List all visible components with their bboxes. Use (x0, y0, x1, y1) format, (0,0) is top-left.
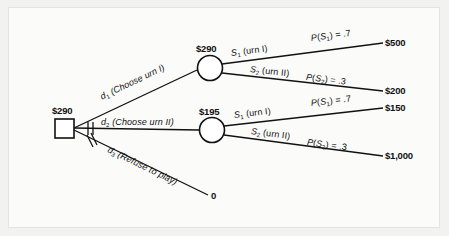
chance-node-2-value-label: $195 (199, 107, 219, 117)
state-label-n1-s1-subscript: 1 (237, 51, 241, 58)
chance-node-urn-1[interactable] (198, 56, 223, 81)
state-label-n2-s2-subscript: 2 (256, 131, 260, 138)
prob-label-n1-s2-subscript: 2 (321, 78, 325, 85)
payoff-label-500: $500 (385, 38, 405, 48)
diagram-page: $290 $290 $195 d1 (Choose urn I) d2 (Cho… (0, 0, 449, 236)
payoff-label-200: $200 (385, 86, 405, 96)
prob-label-n1-s1-subscript: 1 (326, 35, 330, 42)
payoff-label-1000: $1,000 (385, 151, 413, 161)
root-decision-node[interactable] (55, 119, 74, 138)
chance-node-1-value-label: $290 (196, 44, 216, 54)
prob-label-n2-s1-subscript: 1 (326, 100, 330, 107)
branch-label-d2-text: (Choose urn II) (110, 117, 174, 127)
branch-label-d2: d2 (Choose urn II) (101, 118, 174, 127)
branch-label-d2-subscript: 2 (106, 121, 110, 128)
decision-tree-canvas (0, 0, 449, 236)
terminal-zero-label: 0 (211, 191, 216, 201)
chance-node-urn-2[interactable] (200, 118, 225, 143)
prob-label-n2-s2-subscript: 2 (321, 143, 325, 150)
outcome-line-n2-s2 (224, 135, 383, 156)
payoff-label-150: $150 (385, 103, 405, 113)
state-label-n1-s2-subscript: 2 (255, 69, 259, 76)
state-label-n2-s1-subscript: 1 (240, 113, 244, 120)
root-value-label: $290 (52, 106, 72, 116)
outcome-line-n1-s2 (222, 73, 383, 91)
